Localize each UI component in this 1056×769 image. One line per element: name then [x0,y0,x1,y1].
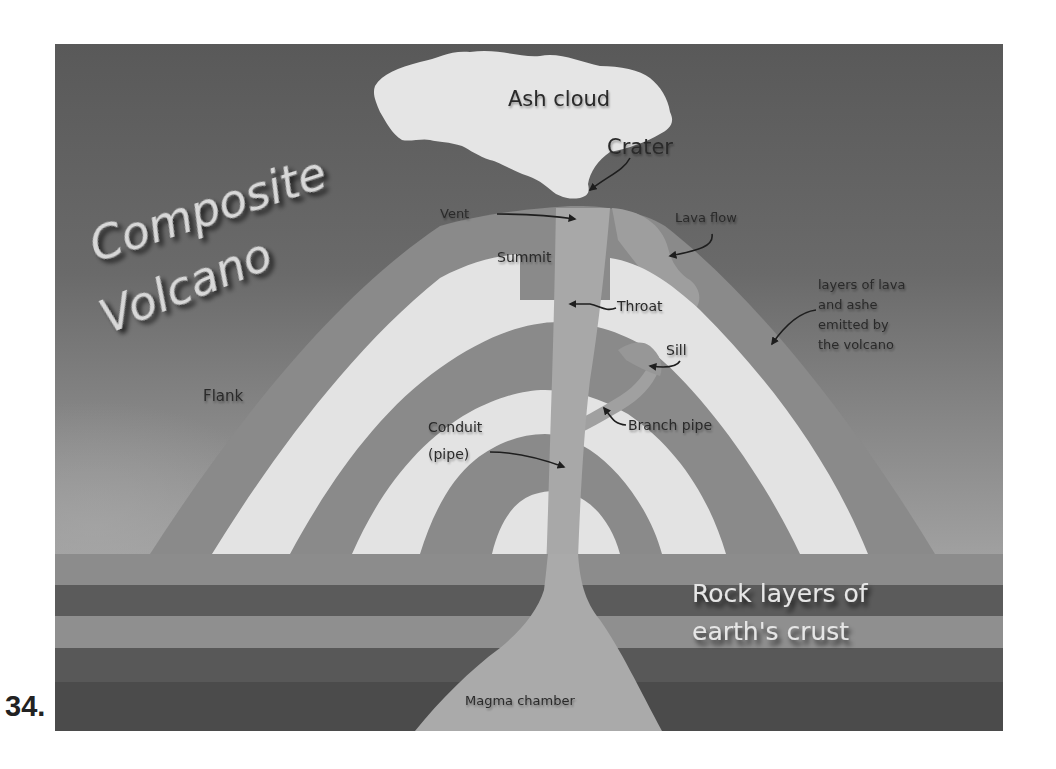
label-rock-layers-1: Rock layers of [692,579,869,608]
label-branch-pipe: Branch pipe [628,417,712,433]
composite-volcano-diagram: Composite Volcano Ash cloud Crater Vent … [0,0,1056,769]
label-magma-chamber: Magma chamber [465,693,575,708]
label-rock-layers-2: earth's crust [692,617,849,646]
label-flank: Flank [203,387,243,405]
label-ash-cloud: Ash cloud [508,87,610,111]
label-lava-flow: Lava flow [675,210,737,225]
svg-text:and ashe: and ashe [818,297,878,312]
label-conduit-1: Conduit [428,419,483,435]
label-throat: Throat [616,298,663,314]
label-summit: Summit [497,249,552,265]
svg-text:layers of lava: layers of lava [818,277,905,292]
svg-text:emitted by: emitted by [818,317,889,332]
label-conduit-2: (pipe) [428,446,469,462]
label-sill: Sill [666,342,687,358]
label-vent: Vent [440,206,469,221]
svg-text:the volcano: the volcano [818,337,894,352]
label-crater: Crater [607,135,673,159]
